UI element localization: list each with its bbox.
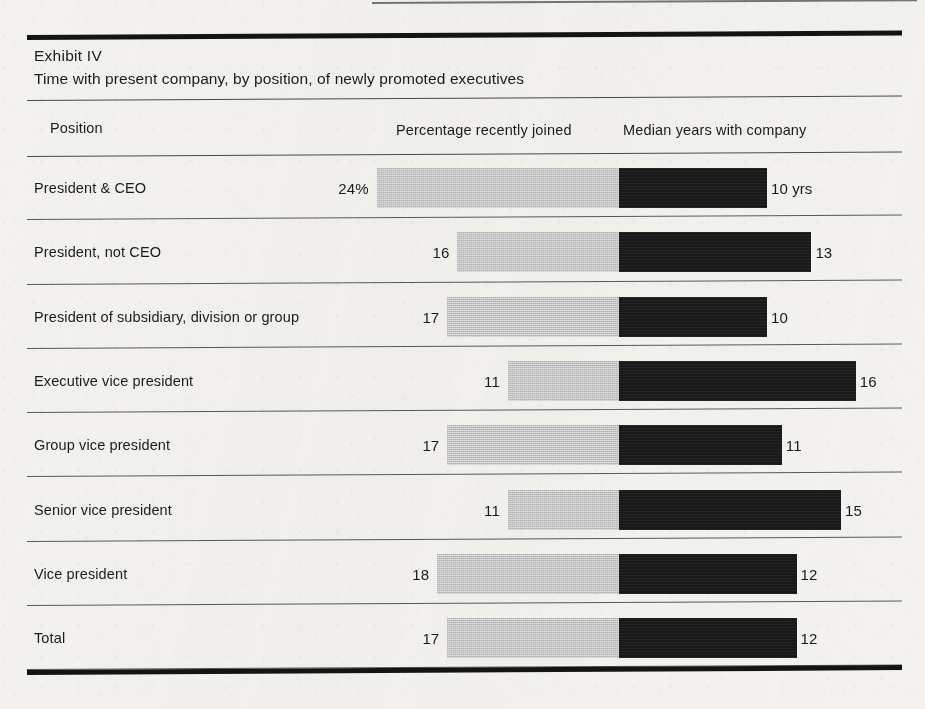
chart-row: Vice president1812 bbox=[0, 542, 925, 606]
chart-rows: President & CEO24%10 yrsPresident, not C… bbox=[0, 156, 925, 670]
chart-row: President, not CEO1613 bbox=[0, 220, 925, 284]
chart-row: President of subsidiary, division or gro… bbox=[0, 285, 925, 349]
chart-row: Total1712 bbox=[0, 606, 925, 670]
value-label-percentage: 17 bbox=[387, 437, 439, 454]
value-label-percentage: 11 bbox=[448, 501, 500, 518]
chart-row: Executive vice president1116 bbox=[0, 349, 925, 413]
chart-row: Group vice president1711 bbox=[0, 413, 925, 477]
bar-percentage-recently-joined bbox=[447, 618, 619, 658]
chart-row: President & CEO24%10 yrs bbox=[0, 156, 925, 220]
bar-median-years-with-company bbox=[619, 232, 811, 272]
column-header-position: Position bbox=[50, 120, 103, 136]
bar-median-years-with-company bbox=[619, 618, 797, 658]
value-label-percentage: 24% bbox=[317, 180, 369, 197]
row-bars: 1812 bbox=[0, 554, 925, 594]
exhibit-subtitle: Time with present company, by position, … bbox=[34, 67, 834, 90]
column-header-percentage: Percentage recently joined bbox=[396, 122, 572, 138]
bar-percentage-recently-joined bbox=[447, 297, 619, 337]
value-label-median-years: 13 bbox=[815, 244, 832, 261]
row-bars: 1116 bbox=[0, 361, 925, 401]
value-label-percentage: 16 bbox=[397, 244, 449, 261]
top-border-rule bbox=[27, 30, 902, 40]
value-label-median-years: 10 bbox=[771, 308, 788, 325]
value-label-percentage: 17 bbox=[387, 308, 439, 325]
value-label-median-years: 12 bbox=[801, 565, 818, 582]
row-bars: 1710 bbox=[0, 297, 925, 337]
row-bars: 24%10 yrs bbox=[0, 168, 925, 208]
exhibit-label: Exhibit IV bbox=[34, 44, 834, 67]
bar-percentage-recently-joined bbox=[377, 168, 619, 208]
value-label-percentage: 17 bbox=[387, 630, 439, 647]
title-divider-rule bbox=[27, 95, 902, 101]
value-label-median-years: 16 bbox=[860, 373, 877, 390]
row-bars: 1613 bbox=[0, 232, 925, 272]
value-label-median-years: 11 bbox=[786, 437, 802, 454]
column-header-median: Median years with company bbox=[623, 122, 806, 138]
bar-percentage-recently-joined bbox=[508, 361, 619, 401]
bar-median-years-with-company bbox=[619, 168, 767, 208]
bar-median-years-with-company bbox=[619, 554, 797, 594]
bar-median-years-with-company bbox=[619, 361, 856, 401]
title-block: Exhibit IV Time with present company, by… bbox=[34, 44, 834, 90]
value-label-median-years: 12 bbox=[801, 630, 818, 647]
bar-percentage-recently-joined bbox=[447, 425, 619, 465]
bar-median-years-with-company bbox=[619, 425, 782, 465]
row-bars: 1711 bbox=[0, 425, 925, 465]
exhibit-page: Exhibit IV Time with present company, by… bbox=[0, 0, 925, 709]
chart-row: Senior vice president1115 bbox=[0, 477, 925, 541]
bar-percentage-recently-joined bbox=[457, 232, 619, 272]
bar-percentage-recently-joined bbox=[508, 490, 619, 530]
bar-percentage-recently-joined bbox=[437, 554, 619, 594]
value-label-percentage: 18 bbox=[377, 565, 429, 582]
bar-median-years-with-company bbox=[619, 297, 767, 337]
row-bars: 1712 bbox=[0, 618, 925, 658]
scan-artifact-line bbox=[372, 0, 917, 4]
value-label-percentage: 11 bbox=[448, 373, 500, 390]
row-bars: 1115 bbox=[0, 490, 925, 530]
value-label-median-years: 10 yrs bbox=[771, 180, 812, 197]
value-label-median-years: 15 bbox=[845, 501, 862, 518]
bar-median-years-with-company bbox=[619, 490, 841, 530]
